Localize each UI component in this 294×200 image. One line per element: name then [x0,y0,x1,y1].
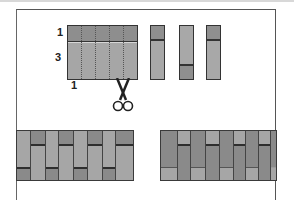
cut-line [81,26,82,79]
column [234,131,246,180]
label-strip-width: 1 [71,80,77,91]
column [116,131,133,180]
strip-dark-segment [151,26,164,39]
cut-strip-3 [206,25,221,80]
column [161,131,178,180]
strip-seam [207,39,220,41]
column [88,131,103,180]
top-rule [0,0,294,2]
column [178,131,192,180]
column [191,131,206,180]
block-top-band [68,26,137,42]
sewn-block [67,25,138,80]
cut-strip-2 [179,25,194,80]
strip-seam [151,39,164,41]
left-arrangement [16,130,134,181]
column [246,131,260,180]
column [31,131,46,180]
column [259,131,271,180]
cut-strip-1 [150,25,165,80]
seam-highlight [68,42,137,43]
strip-dark-segment [180,66,193,79]
column [59,131,74,180]
scissors-icon [110,78,136,114]
column [46,131,60,180]
right-arrangement [160,130,277,181]
column [271,131,276,180]
cut-line [123,26,124,79]
cut-line [109,26,110,79]
column [206,131,220,180]
label-top-band: 1 [57,27,63,38]
column [220,131,234,180]
column [17,131,31,180]
cut-line [95,26,96,79]
column [74,131,88,180]
column [103,131,117,180]
strip-dark-segment [207,26,220,39]
label-main-band: 3 [55,52,61,63]
